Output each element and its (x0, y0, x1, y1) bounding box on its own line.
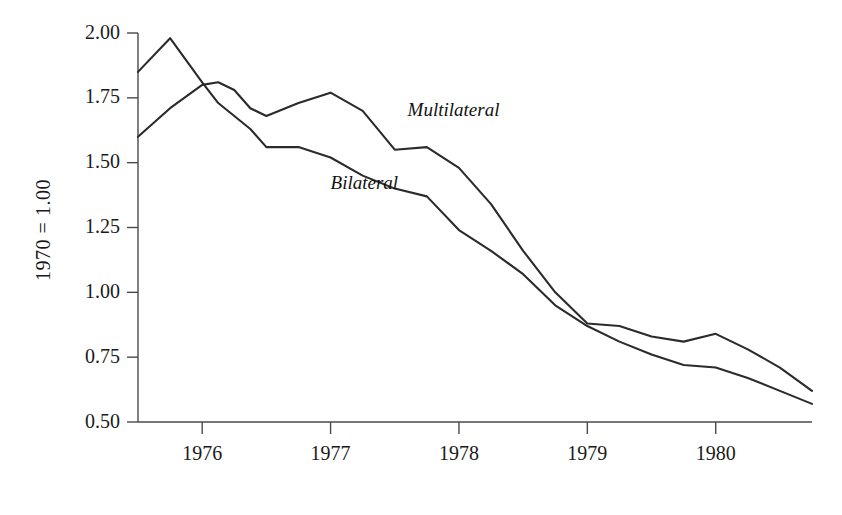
y-tick-label: 0.75 (85, 345, 120, 367)
x-tick-label: 1976 (182, 442, 222, 464)
y-tick-label: 1.75 (85, 85, 120, 107)
x-tick-label: 1980 (696, 442, 736, 464)
chart-figure: 2.001.751.501.251.000.750.50 19761977197… (0, 0, 842, 515)
chart-background (0, 0, 842, 515)
line-chart-canvas: 2.001.751.501.251.000.750.50 19761977197… (0, 0, 842, 515)
x-tick-label: 1978 (439, 442, 479, 464)
y-tick-label: 1.00 (85, 280, 120, 302)
y-tick-label: 0.50 (85, 410, 120, 432)
y-tick-label: 1.50 (85, 150, 120, 172)
x-tick-label: 1979 (567, 442, 607, 464)
y-axis-title: 1970 = 1.00 (32, 179, 54, 281)
series-label-multilateral: Multilateral (407, 99, 500, 120)
y-tick-label: 2.00 (85, 21, 120, 43)
series-label-bilateral: Bilateral (331, 172, 399, 193)
x-tick-label: 1977 (311, 442, 351, 464)
y-tick-label: 1.25 (85, 215, 120, 237)
